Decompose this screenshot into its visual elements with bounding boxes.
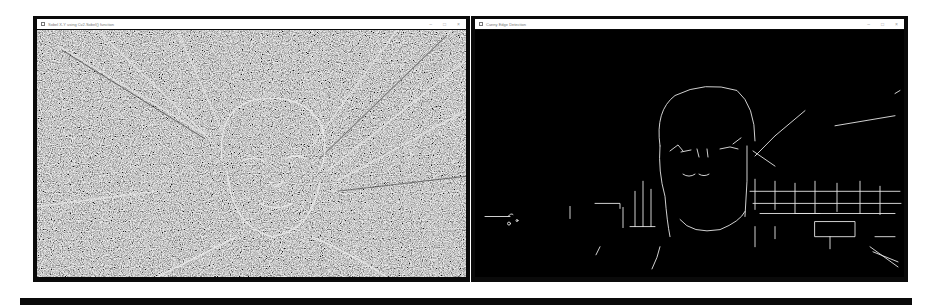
app-icon (41, 22, 45, 26)
window-title: Sobel X-Y using Cv2.Sobel() function (48, 22, 114, 27)
maximize-button[interactable]: □ (881, 19, 884, 29)
sobel-window-titlebar[interactable]: Sobel X-Y using Cv2.Sobel() function – □… (37, 19, 466, 29)
minimize-button[interactable]: – (867, 19, 870, 29)
sobel-window[interactable]: Sobel X-Y using Cv2.Sobel() function – □… (33, 16, 470, 282)
canny-window[interactable]: Canny Edge Detection – □ × (471, 16, 908, 282)
bottom-frame-bar (20, 298, 912, 305)
close-button[interactable]: × (895, 19, 898, 29)
window-title: Canny Edge Detection (486, 22, 526, 27)
maximize-button[interactable]: □ (443, 19, 446, 29)
canny-window-titlebar[interactable]: Canny Edge Detection – □ × (475, 19, 904, 29)
canny-edge-image (475, 30, 904, 277)
close-button[interactable]: × (457, 19, 460, 29)
app-icon (479, 22, 483, 26)
minimize-button[interactable]: – (429, 19, 432, 29)
sobel-image (37, 30, 466, 277)
